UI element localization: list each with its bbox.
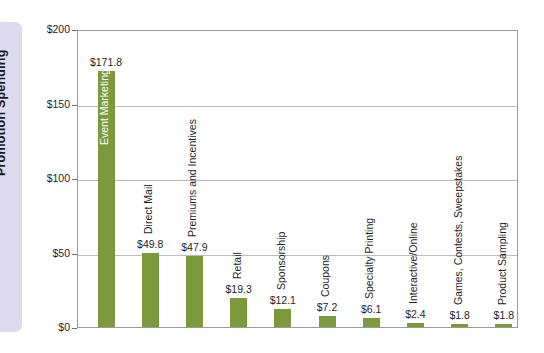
- bar-value-label: $171.8: [77, 56, 135, 68]
- bar-category-label: Premiums and Incentives: [186, 119, 198, 237]
- bar-value-label: $47.9: [165, 241, 223, 253]
- y-axis-tick-label: $150: [34, 98, 70, 110]
- bar[interactable]: [495, 324, 512, 327]
- bar-group: $7.2Coupons: [319, 29, 336, 327]
- bar-category-label: Games, Contests, Sweepstakes: [452, 156, 464, 305]
- bar-category-label: Sponsorship: [275, 232, 287, 290]
- bar-category-label: Interactive/Online: [407, 223, 419, 305]
- bar-category-label: Direct Mail: [142, 184, 154, 234]
- plot-area: $171.8Event Marketing$49.8Direct Mail$47…: [77, 30, 518, 328]
- y-axis-title: Promotion Spending: [0, 49, 8, 176]
- bar-group: $1.8Product Sampling: [495, 29, 512, 327]
- y-axis-tick-label: $0: [34, 321, 70, 333]
- bar-group: $12.1Sponsorship: [274, 29, 291, 327]
- bar[interactable]: [186, 256, 203, 327]
- bar[interactable]: [142, 253, 159, 327]
- bar[interactable]: [363, 318, 380, 327]
- y-axis-tick-label: $50: [34, 247, 70, 259]
- bar[interactable]: [451, 324, 468, 327]
- bar-group: $1.8Games, Contests, Sweepstakes: [451, 29, 468, 327]
- y-axis-tick-label: $200: [34, 23, 70, 35]
- bar-category-label: Coupons: [319, 255, 331, 297]
- bar[interactable]: [274, 309, 291, 327]
- bar-category-label: Product Sampling: [496, 222, 508, 305]
- bar-group: $19.3Retail: [230, 29, 247, 327]
- bar-value-label: $1.8: [475, 309, 533, 321]
- y-axis-tick-mark: [72, 328, 77, 329]
- promotion-spending-bar-chart: Promotion Spending $0$50$100$150$200 $17…: [0, 0, 544, 353]
- bar-group: $47.9Premiums and Incentives: [186, 29, 203, 327]
- bar[interactable]: [230, 298, 247, 327]
- bar-group: $6.1Specialty Printing: [363, 29, 380, 327]
- bar[interactable]: [319, 316, 336, 327]
- bar-category-label: Retail: [231, 252, 243, 279]
- bar-group: $171.8Event Marketing: [98, 29, 115, 327]
- y-axis-tick-label: $100: [34, 172, 70, 184]
- bar-group: $2.4Interactive/Online: [407, 29, 424, 327]
- bar[interactable]: [407, 323, 424, 327]
- bar-category-label: Event Marketing: [98, 69, 110, 145]
- bar-category-label: Specialty Printing: [363, 218, 375, 299]
- bar-group: $49.8Direct Mail: [142, 29, 159, 327]
